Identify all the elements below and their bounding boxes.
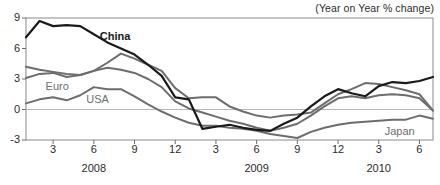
line-chart-plot (0, 0, 440, 185)
x-axis-label: 3 (42, 143, 64, 155)
x-axis-label: 6 (246, 143, 268, 155)
x-axis-label: 12 (164, 143, 186, 155)
x-axis-label: 9 (286, 143, 308, 155)
x-axis-year-label: 2009 (237, 162, 277, 174)
series-label-usa: USA (86, 93, 109, 105)
series-line-china (26, 21, 433, 131)
x-axis-year-label: 2008 (74, 162, 114, 174)
series-label-euro: Euro (46, 80, 69, 92)
x-axis-label: 9 (124, 143, 146, 155)
x-axis-label: 12 (327, 143, 349, 155)
y-axis-label: -3 (0, 133, 20, 145)
series-line-euro (26, 54, 433, 118)
y-axis-label: 6 (0, 42, 20, 54)
y-axis-label: 0 (0, 103, 20, 115)
x-axis-label: 3 (205, 143, 227, 155)
x-axis-year-label: 2010 (359, 162, 399, 174)
x-axis-label: 3 (368, 143, 390, 155)
chart-container: (Year on Year % change) 9630-33691236912… (0, 0, 440, 185)
y-axis-label: 3 (0, 72, 20, 84)
series-label-china: China (100, 30, 131, 42)
y-axis-label: 9 (0, 11, 20, 23)
series-label-japan: Japan (385, 125, 415, 137)
x-axis-label: 6 (408, 143, 430, 155)
x-axis-label: 6 (83, 143, 105, 155)
